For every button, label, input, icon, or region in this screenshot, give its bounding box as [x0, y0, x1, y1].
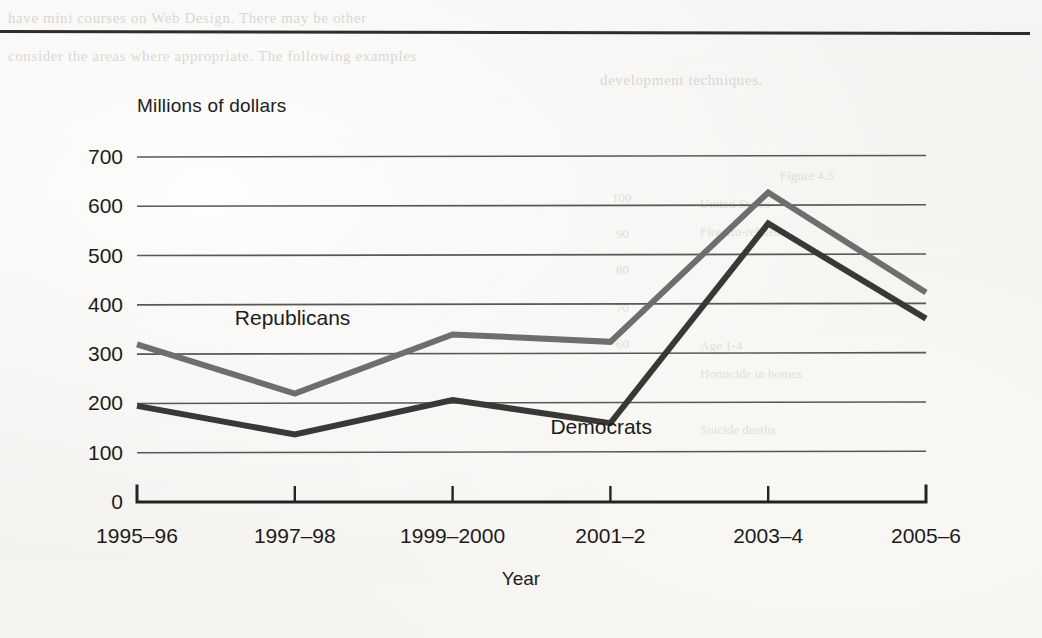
x-axis-tick-label: 2005–6: [891, 524, 961, 548]
y-axis-tick-label: 700: [57, 145, 123, 169]
x-axis-title: Year: [0, 568, 1042, 590]
y-axis-title: Millions of dollars: [137, 95, 287, 117]
scanned-page: have mini courses on Web Design. There m…: [0, 0, 1042, 638]
gridline: [137, 156, 926, 158]
gridline: [137, 402, 926, 404]
y-axis-tick-label: 0: [57, 490, 123, 514]
gridline: [137, 353, 926, 355]
y-axis-tick-label: 400: [57, 293, 123, 317]
y-axis-tick-label: 600: [57, 194, 123, 218]
x-axis-tick-label: 2003–4: [733, 524, 803, 548]
y-axis-tick-label: 200: [57, 391, 123, 415]
x-axis-tick-label: 1997–98: [254, 524, 336, 548]
gridlines: [137, 156, 926, 453]
y-axis-tick-label: 500: [57, 244, 123, 268]
axis-lines: [137, 486, 926, 502]
y-axis-tick-label: 300: [57, 342, 123, 366]
y-axis-tick-label: 100: [57, 441, 123, 465]
x-axis-tick-label: 2001–2: [575, 524, 645, 548]
series-label-democrats: Democrats: [550, 415, 652, 439]
x-axis-tick-marks: [295, 486, 768, 502]
x-axis-tick-label: 1999–2000: [400, 524, 505, 548]
series-label-republicans: Republicans: [235, 306, 351, 330]
gridline: [137, 205, 926, 207]
x-axis-tick-label: 1995–96: [96, 524, 178, 548]
gridline: [137, 451, 926, 453]
series-line-republicans[interactable]: [137, 192, 926, 393]
gridline: [137, 303, 926, 305]
gridline: [137, 254, 926, 256]
line-chart: Millions of dollars 01002003004005006007…: [0, 0, 1042, 638]
